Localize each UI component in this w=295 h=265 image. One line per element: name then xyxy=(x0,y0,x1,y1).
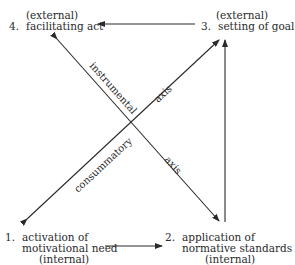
consummatory-axis-line xyxy=(27,40,219,219)
consummatory-axis-label: axis xyxy=(152,83,174,105)
node-4: (external) 4.facilitating act xyxy=(9,10,103,32)
node-3-number: 3. xyxy=(201,21,218,32)
node-3: (external) 3.setting of goal xyxy=(201,10,294,32)
node-2-number: 2. xyxy=(165,232,182,243)
node-2-qualifier: (internal) xyxy=(165,254,292,265)
node-4-number: 4. xyxy=(9,21,26,32)
instrumental-axis-label: axis xyxy=(163,154,184,176)
node-1-number: 1. xyxy=(5,232,22,243)
node-1: 1.activation of motivational need (inter… xyxy=(5,232,118,265)
node-2: 2.application of normative standards (in… xyxy=(165,232,292,265)
instrumental-label: instrumental xyxy=(88,60,139,116)
node-3-label: setting of goal xyxy=(218,20,294,32)
consummatory-label: consummatory xyxy=(72,135,135,194)
node-1-qualifier: (internal) xyxy=(5,254,118,265)
instrumental-axis-line xyxy=(57,39,219,221)
node-4-label: facilitating act xyxy=(26,20,103,32)
